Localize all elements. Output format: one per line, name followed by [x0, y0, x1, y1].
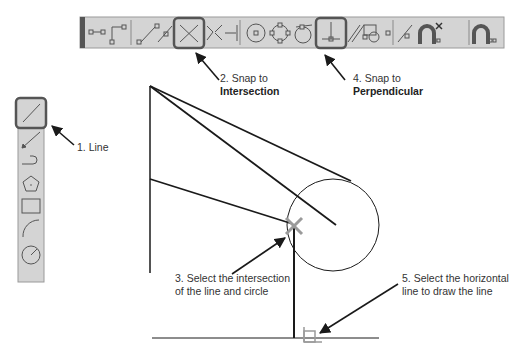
arrow-step1	[52, 126, 74, 145]
callout-step4-line2: Perpendicular	[353, 85, 423, 97]
object-snap-toolbar	[80, 17, 504, 48]
circle-shape	[287, 179, 379, 271]
callout-step1-text: 1. Line	[77, 141, 109, 153]
callout-step2-line2: Intersection	[220, 85, 280, 97]
callout-step5-line1: 5. Select the horizontal	[402, 272, 509, 284]
callout-step3-line2: of the line and circle	[175, 285, 268, 297]
intersection-snap-icon[interactable]	[174, 18, 204, 48]
diagram-canvas	[0, 0, 511, 361]
callout-step5: 5. Select the horizontal line to draw th…	[402, 272, 509, 298]
callout-step3: 3. Select the intersection of the line a…	[175, 272, 290, 298]
callout-step1: 1. Line	[77, 141, 109, 154]
perpendicular-marker-icon	[304, 327, 322, 342]
callout-step3-line1: 3. Select the intersection	[175, 272, 290, 284]
arrow-step2	[196, 53, 219, 80]
callout-step4-line1: 4. Snap to	[353, 72, 401, 84]
callout-step5-line2: line to draw the line	[402, 285, 492, 297]
draw-toolbar	[16, 98, 46, 282]
drawing-geometry	[150, 86, 379, 338]
arrow-step4	[325, 55, 345, 80]
arrow-step3	[232, 238, 285, 274]
callout-step2-line1: 2. Snap to	[220, 72, 268, 84]
perpendicular-snap-icon[interactable]	[316, 18, 346, 48]
callout-step4: 4. Snap to Perpendicular	[353, 72, 423, 98]
arrow-step5	[320, 284, 398, 333]
callout-step2: 2. Snap to Intersection	[220, 72, 280, 98]
line-tool-icon[interactable]	[16, 98, 46, 128]
